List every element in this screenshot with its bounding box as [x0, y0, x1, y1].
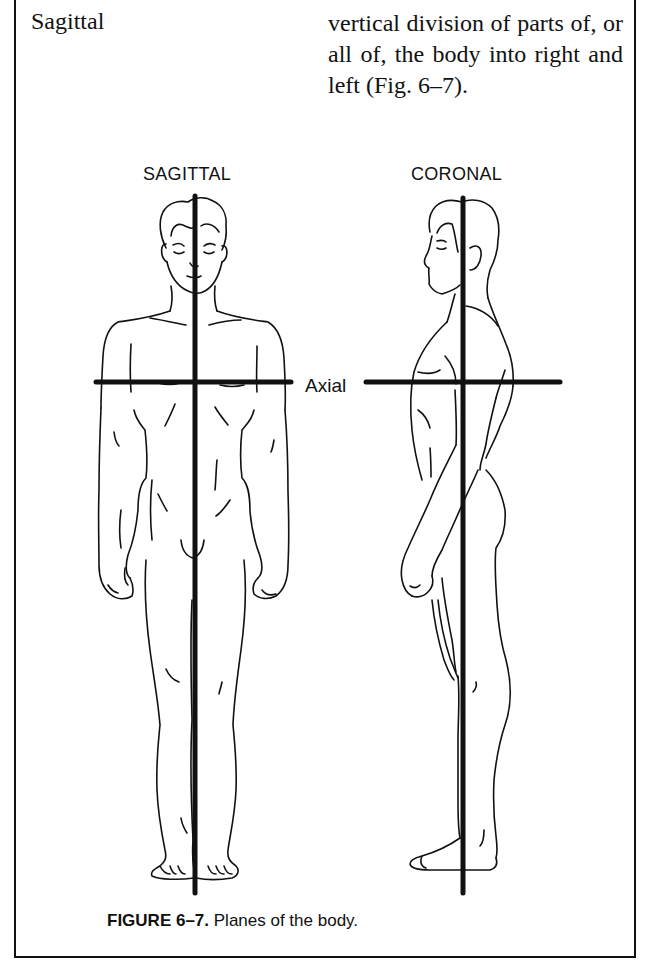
- side-body-figure: [401, 200, 513, 870]
- figure-caption-text: Planes of the body.: [209, 911, 358, 930]
- textbook-page: Sagittal vertical division of parts of, …: [0, 0, 660, 974]
- planes-of-body-illustration: [0, 0, 660, 974]
- figure-number: FIGURE 6–7.: [107, 911, 209, 930]
- figure-caption: FIGURE 6–7. Planes of the body.: [107, 911, 358, 931]
